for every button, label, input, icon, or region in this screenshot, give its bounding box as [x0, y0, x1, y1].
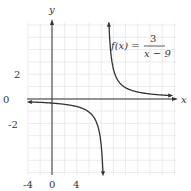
right-branch-curve	[109, 23, 171, 96]
y-axis-label: y	[48, 4, 55, 15]
arrow-right-icon	[168, 94, 173, 98]
function-graph: x y -4 0 4 2 0 -2 f(x) = 3 x − 9	[0, 0, 191, 191]
x-axis-label: x	[181, 94, 187, 105]
arrow-left-icon	[27, 100, 32, 104]
function-numerator: 3	[150, 33, 156, 44]
y-tick-label: 2	[14, 69, 20, 80]
y-tick-label: 0	[3, 94, 9, 105]
y-axis-arrow-icon	[50, 19, 54, 25]
function-lhs: f(x) =	[110, 40, 140, 51]
function-denominator: x − 9	[144, 48, 171, 59]
x-tick-label: 0	[49, 179, 55, 190]
x-tick-label: -4	[23, 179, 33, 190]
x-tick-label: 4	[73, 179, 79, 190]
arrow-up-icon	[107, 22, 111, 27]
y-tick-label: -2	[8, 119, 18, 130]
x-axis-arrow-icon	[172, 97, 178, 101]
